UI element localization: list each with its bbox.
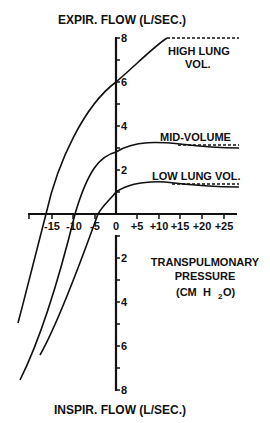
x-tick-label: +25	[215, 220, 234, 232]
y-tick-label: 4	[121, 120, 128, 132]
y-axis-inspiratory	[116, 235, 120, 391]
units-end: O)	[223, 286, 236, 298]
x-tick-label: -10	[66, 220, 82, 232]
y-axis-title-expiratory: EXPIR. FLOW (L/SEC.)	[58, 13, 186, 27]
x-tick-label: 0	[113, 220, 119, 232]
y-axis-title-inspiratory: INSPIR. FLOW (L/SEC.)	[54, 403, 186, 417]
x-tick-label: +15	[171, 220, 190, 232]
y-tick-label: 4	[121, 296, 128, 308]
x-axis-title-units: (CM H 2 O)	[176, 286, 236, 301]
x-tick-label: +20	[193, 220, 212, 232]
x-axis-title-line1: TRANSPULMONARY	[151, 256, 260, 268]
y-tick-label: 8	[121, 32, 127, 44]
curve-low-lung-volume	[40, 182, 239, 355]
x-axis	[28, 214, 237, 219]
y-tick-labels-inspiratory: 2 4 6 8	[121, 252, 128, 396]
label-high-lung: HIGH LUNG	[168, 45, 230, 57]
x-tick-label: +10	[150, 220, 169, 232]
y-tick-label: 8	[121, 384, 127, 396]
curves	[18, 38, 239, 380]
curve-high-lung-volume	[18, 38, 167, 323]
y-tick-label: 2	[121, 164, 127, 176]
x-tick-label: -15	[44, 220, 60, 232]
x-axis-title-line2: PRESSURE	[175, 270, 236, 282]
units-text: (CM H	[176, 286, 211, 298]
y-axis-expiratory	[116, 37, 120, 214]
flow-pressure-chart: EXPIR. FLOW (L/SEC.) INSPIR. FLOW (L/SEC…	[0, 0, 270, 423]
label-low-lung-vol: LOW LUNG VOL.	[152, 170, 241, 182]
y-tick-label: 2	[121, 252, 127, 264]
y-tick-label: 6	[121, 340, 127, 352]
label-mid-volume: MID-VOLUME	[160, 131, 231, 143]
y-tick-labels-expiratory: 8 6 4 2	[121, 32, 128, 176]
x-tick-label: +5	[131, 220, 144, 232]
label-high-lung-vol: VOL.	[185, 58, 211, 70]
